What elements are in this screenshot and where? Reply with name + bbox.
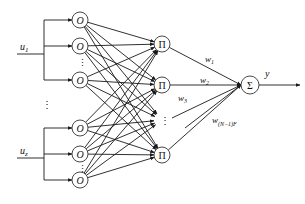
svg-text:Σ: Σ (247, 80, 253, 91)
pi-node-2: Π (154, 77, 170, 93)
hidden-edge (88, 22, 155, 42)
weight-label-wN1F: w(N−1)F (212, 115, 237, 128)
input-group-ellipsis: ⋮ (42, 99, 52, 110)
pi-node-ellipsis: ⋮ (160, 115, 170, 126)
hidden-edge (88, 154, 154, 155)
o-node-ellipsis-top: ⋮ (78, 58, 87, 68)
input-label-u1: u1 (20, 41, 29, 54)
weight-label-w2: w2 (200, 75, 209, 86)
hidden-edge (87, 49, 155, 81)
hidden-edge (87, 123, 154, 151)
pi-node-1: Π (154, 36, 170, 52)
hidden-edge (88, 80, 154, 84)
neural-network-diagram: OOOOOOΠΠΠΣ u1 uz ⋮ ⋮ ⋮ ⋮ w1 w2 w3 w(N−1)… (0, 0, 305, 204)
o-node-1: O (72, 12, 88, 28)
hidden-edge (88, 131, 155, 153)
o-node-3: O (72, 72, 88, 88)
svg-text:O: O (76, 41, 83, 52)
pi-node-3: Π (154, 147, 170, 163)
o-node-5: O (72, 146, 88, 162)
sum-node: Σ (241, 76, 259, 94)
o-node-6: O (72, 172, 88, 188)
svg-text:Π: Π (158, 150, 165, 161)
svg-text:Π: Π (158, 39, 165, 50)
o-node-2: O (72, 38, 88, 54)
svg-text:Π: Π (158, 80, 165, 91)
weight-label-w1: w1 (205, 54, 214, 65)
svg-text:O: O (76, 15, 83, 26)
nodes: OOOOOOΠΠΠΣ (72, 12, 259, 188)
output-label-y: y (264, 68, 270, 79)
o-node-ellipsis-bottom: ⋮ (78, 164, 87, 174)
svg-text:O: O (76, 123, 83, 134)
hidden-edge (88, 44, 154, 46)
svg-text:O: O (76, 75, 83, 86)
weight-label-w3: w3 (178, 93, 187, 104)
svg-text:O: O (76, 175, 83, 186)
input-label-uz: uz (20, 145, 28, 158)
svg-text:O: O (76, 149, 83, 160)
o-node-4: O (72, 120, 88, 136)
